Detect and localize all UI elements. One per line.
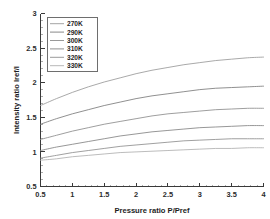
legend-label-300k: 300K — [67, 37, 83, 44]
x-axis-tick-label: 4 — [261, 190, 266, 199]
x-axis-title: Pressure ratio P/Pref — [114, 206, 190, 215]
legend-label-330k: 330K — [67, 62, 83, 69]
x-axis-tick-label: 2.5 — [163, 190, 173, 199]
series-line-330k — [41, 148, 264, 161]
y-axis-tick-label: 2 — [32, 78, 36, 87]
y-axis-tick-label: 1 — [32, 148, 36, 157]
chart-figure: 0.511.522.533.540.511.522.53Pressure rat… — [0, 0, 270, 219]
x-axis-tick-label: 1.5 — [99, 190, 109, 199]
y-axis-title: Intensity ratio Iref/I — [12, 66, 21, 134]
legend-label-290k: 290K — [67, 29, 83, 36]
y-axis-tick-label: 2.5 — [26, 44, 36, 53]
legend-label-320k: 320K — [67, 54, 83, 61]
x-axis-tick-label: 3 — [198, 190, 202, 199]
legend-label-270k: 270K — [67, 20, 83, 27]
series-line-300k — [41, 108, 264, 139]
x-axis-tick-label: 1 — [70, 190, 74, 199]
y-axis-tick-label: 1.5 — [26, 113, 36, 122]
legend-label-310k: 310K — [67, 45, 83, 52]
y-axis-tick-label: 0.5 — [26, 182, 36, 191]
x-axis-tick-label: 0.5 — [35, 190, 45, 199]
series-line-310k — [41, 126, 264, 151]
x-axis-tick-label: 3.5 — [227, 190, 237, 199]
y-axis-tick-label: 3 — [32, 9, 36, 18]
x-axis-tick-label: 2 — [134, 190, 138, 199]
line-chart: 0.511.522.533.540.511.522.53Pressure rat… — [0, 0, 270, 219]
